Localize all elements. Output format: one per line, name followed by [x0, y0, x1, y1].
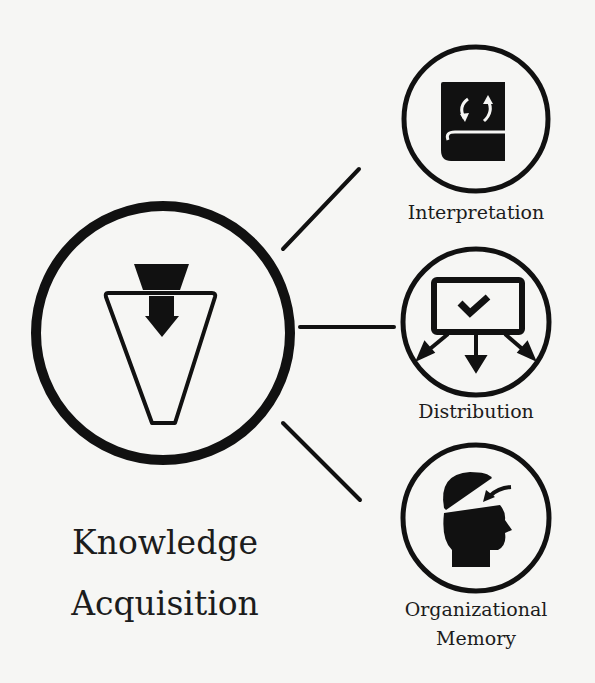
board-check-distribute-icon	[419, 280, 533, 370]
knowledge-acquisition-node	[36, 206, 290, 460]
interpretation-node	[404, 47, 548, 191]
connectors	[283, 169, 394, 500]
memory-label-line1: Organizational	[386, 600, 566, 619]
interpretation-label: Interpretation	[386, 203, 566, 222]
memory-label-line2: Memory	[386, 629, 566, 648]
diagram-canvas	[0, 0, 595, 683]
edge-to-memory	[283, 423, 360, 500]
head-memory-icon	[443, 472, 512, 567]
distribution-label: Distribution	[386, 402, 566, 421]
edge-to-interpretation	[283, 169, 359, 249]
funnel-arrow-icon	[106, 264, 215, 423]
main-node-label-line1: Knowledge	[30, 526, 300, 559]
main-node-label-line2: Acquisition	[30, 587, 300, 620]
distribution-node	[403, 249, 549, 395]
memory-node	[403, 445, 549, 591]
book-refresh-icon	[441, 82, 505, 161]
